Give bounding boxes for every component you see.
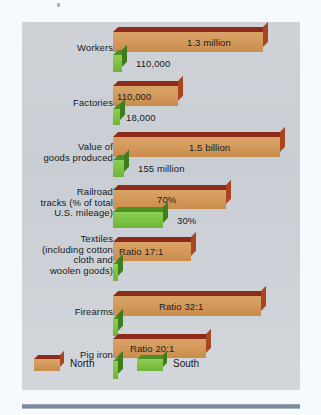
bar-side-bevel xyxy=(118,254,123,276)
bar-value-south-railroad-tracks: 30% xyxy=(177,215,196,226)
bar-value-north-workers: 1.3 million xyxy=(187,37,231,48)
category-label-workers: Workers xyxy=(0,43,113,54)
bar-side-bevel xyxy=(124,150,129,172)
category-label-line: Value of xyxy=(0,142,113,153)
bar-south-value-of-goods xyxy=(113,160,124,177)
bar-side-bevel xyxy=(226,180,231,204)
chart-row-textiles: Textiles (including cotton cloth and woo… xyxy=(22,231,300,287)
legend-swatch-north-icon xyxy=(34,359,60,371)
category-label-railroad-tracks: Railroad tracks (% of total U.S. mileage… xyxy=(0,187,113,219)
chart-row-workers: Workers 1.3 million 110,000 xyxy=(22,22,300,74)
bar-value-south-workers: 110,000 xyxy=(136,58,170,69)
chart-figure-panel: Workers 1.3 million 110,000 Fact xyxy=(22,22,300,390)
category-label-textiles: Textiles (including cotton cloth and woo… xyxy=(0,234,113,276)
chart-row-railroad-tracks: Railroad tracks (% of total U.S. mileage… xyxy=(22,179,300,231)
swatch-side-bevel xyxy=(163,351,167,367)
swatch-face xyxy=(34,359,60,371)
page-bottom-rule xyxy=(22,404,300,409)
bar-side-bevel xyxy=(261,286,266,311)
chart-plot-area: Workers 1.3 million 110,000 Fact xyxy=(22,22,300,340)
bar-value-north-value-of-goods: 1.5 billion xyxy=(189,142,230,153)
chart-row-firearms: Firearms Ratio 32:1 xyxy=(22,287,300,332)
legend-label-north: North xyxy=(70,358,94,369)
bar-value-south-value-of-goods: 155 million xyxy=(138,163,185,174)
legend-label-south: South xyxy=(173,358,199,369)
bar-south-factories xyxy=(113,109,120,125)
bar-side-bevel xyxy=(178,76,183,101)
chart-legend: North South xyxy=(22,344,300,390)
page-artifact-speck xyxy=(57,3,60,7)
category-label-line: Railroad xyxy=(0,187,113,198)
category-label-line: Firearms xyxy=(0,307,113,318)
bar-face xyxy=(113,264,118,281)
category-label-line: Textiles xyxy=(0,234,113,245)
bar-value-north-firearms: Ratio 32:1 xyxy=(159,301,203,312)
bar-side-bevel xyxy=(263,22,268,47)
category-label-value-of-goods: Value of goods produced xyxy=(0,142,113,163)
chart-page: Workers 1.3 million 110,000 Fact xyxy=(0,0,321,415)
legend-swatch-south-icon xyxy=(137,359,163,371)
bar-side-bevel xyxy=(163,202,168,223)
bar-value-south-factories: 18,000 xyxy=(126,112,156,123)
bar-south-workers xyxy=(113,55,122,72)
category-label-firearms: Firearms xyxy=(0,307,113,318)
bar-face xyxy=(113,212,163,228)
bar-side-bevel xyxy=(120,99,125,120)
category-label-line: Factories xyxy=(0,98,113,109)
category-label-line: U.S. mileage) xyxy=(0,208,113,219)
bar-side-bevel xyxy=(191,232,196,256)
bar-face xyxy=(113,109,120,125)
swatch-face xyxy=(137,359,163,371)
bar-south-railroad-tracks xyxy=(113,212,163,228)
category-label-line: woolen goods) xyxy=(0,266,113,277)
bar-value-north-textiles: Ratio 17:1 xyxy=(119,246,163,257)
category-label-line: goods produced xyxy=(0,153,113,164)
bar-face xyxy=(113,160,124,177)
bar-side-bevel xyxy=(122,45,127,67)
chart-row-factories: Factories 110,000 18,000 xyxy=(22,77,300,127)
bar-face xyxy=(113,55,122,72)
category-label-line: Workers xyxy=(0,43,113,54)
chart-row-value-of-goods: Value of goods produced 1.5 billion 155 … xyxy=(22,127,300,179)
swatch-side-bevel xyxy=(60,351,64,367)
bar-side-bevel xyxy=(280,127,285,152)
category-label-factories: Factories xyxy=(0,98,113,109)
bar-south-textiles xyxy=(113,264,118,281)
bar-side-bevel xyxy=(118,309,123,331)
